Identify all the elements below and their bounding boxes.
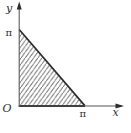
y-axis-arrowhead-icon (17, 2, 22, 10)
x-axis-label: x (113, 106, 120, 119)
shaded-region (19, 30, 85, 106)
pi-tick-label-y: π (6, 27, 13, 38)
y-axis-label: y (5, 2, 13, 15)
figure-canvas: y π O π x (0, 0, 131, 133)
pi-tick-label-x: π (80, 108, 87, 119)
origin-label: O (3, 102, 12, 115)
